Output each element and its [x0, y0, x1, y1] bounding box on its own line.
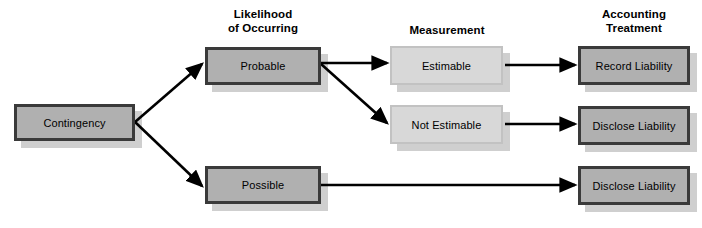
column-heading-measurement: Measurement: [382, 24, 512, 38]
node-disclose-liability-upper-label: Disclose Liability: [592, 120, 675, 132]
edge-probable-to-not-estimable: [321, 64, 387, 123]
node-estimable-label: Estimable: [422, 60, 471, 72]
node-probable[interactable]: Probable: [205, 47, 321, 85]
node-possible-label: Possible: [242, 179, 284, 191]
column-heading-likelihood: Likelihood of Occurring: [186, 8, 340, 35]
node-not-estimable[interactable]: Not Estimable: [390, 105, 503, 144]
node-not-estimable-label: Not Estimable: [412, 119, 482, 131]
node-record-liability[interactable]: Record Liability: [578, 46, 690, 85]
contingency-flowchart: Likelihood of Occurring Measurement Acco…: [0, 0, 702, 228]
node-disclose-liability-lower[interactable]: Disclose Liability: [578, 166, 690, 205]
node-estimable[interactable]: Estimable: [390, 46, 503, 85]
node-disclose-liability-upper[interactable]: Disclose Liability: [578, 106, 690, 145]
edge-contingency-to-probable: [135, 64, 202, 122]
node-contingency[interactable]: Contingency: [14, 104, 135, 141]
node-possible[interactable]: Possible: [205, 166, 321, 204]
edge-contingency-to-possible: [135, 122, 202, 186]
node-contingency-label: Contingency: [43, 117, 105, 129]
node-record-liability-label: Record Liability: [596, 60, 673, 72]
column-heading-accounting-treatment: Accounting Treatment: [568, 8, 700, 35]
node-disclose-liability-lower-label: Disclose Liability: [592, 180, 675, 192]
node-probable-label: Probable: [241, 60, 286, 72]
